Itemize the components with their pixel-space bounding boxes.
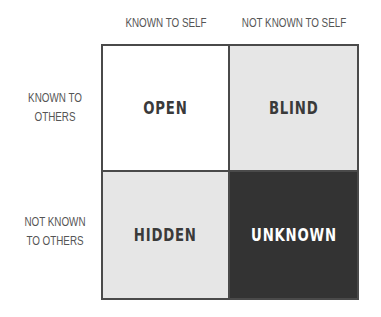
row-header-line: NOT KNOWN	[16, 213, 93, 232]
column-header-known-to-self: KNOWN TO SELF	[114, 16, 219, 34]
quadrant-blind: BLIND	[230, 46, 357, 172]
johari-grid: OPEN BLIND HIDDEN UNKNOWN	[101, 44, 359, 300]
row-header-line: KNOWN TO	[16, 89, 93, 108]
row-header-line: OTHERS	[16, 108, 93, 127]
row-header-known-to-others: KNOWN TO OTHERS	[16, 89, 93, 127]
row-header-line: TO OTHERS	[16, 232, 93, 251]
row-header-not-known-to-others: NOT KNOWN TO OTHERS	[16, 213, 93, 251]
quadrant-label: HIDDEN	[134, 225, 197, 245]
quadrant-open: OPEN	[103, 46, 230, 172]
quadrant-hidden: HIDDEN	[103, 172, 230, 298]
quadrant-unknown: UNKNOWN	[230, 172, 357, 298]
column-header-not-known-to-self: NOT KNOWN TO SELF	[241, 16, 348, 34]
quadrant-label: UNKNOWN	[251, 225, 337, 245]
quadrant-label: OPEN	[143, 98, 187, 118]
quadrant-label: BLIND	[269, 98, 319, 118]
